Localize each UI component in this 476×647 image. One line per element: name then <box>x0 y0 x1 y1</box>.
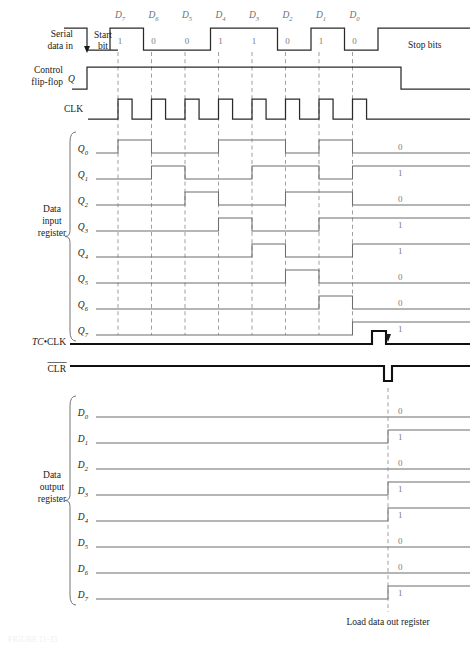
q-row-label-2-subscript: 2 <box>85 201 89 208</box>
d4-final-value: 1 <box>398 510 403 520</box>
d-row-label-5-subscript: 5 <box>85 543 89 550</box>
q5-waveform <box>96 270 470 283</box>
d-row-label-2: D2 <box>77 460 89 472</box>
tc-clk-waveform <box>70 331 470 344</box>
bit-header-d1: D1 <box>315 10 326 22</box>
control-ff-q-waveform <box>72 67 470 89</box>
q-row-label-5-subscript: 5 <box>85 279 89 286</box>
serial-bit-value-0: 1 <box>118 36 123 46</box>
d2-final-value: 0 <box>398 458 403 468</box>
serial-bit-value-3: 1 <box>218 36 223 46</box>
d-row-label-0: D0 <box>77 408 89 420</box>
serial-bit-value-2: 0 <box>185 36 190 46</box>
signal-serial-data-in: Serial data in Start bit Stop bits 10011… <box>47 28 470 53</box>
control-ff-label-line1: Control <box>34 65 63 75</box>
d-row-label-5: D5 <box>77 538 89 550</box>
q-row-label-4: Q4 <box>78 248 89 260</box>
q7-final-value: 1 <box>398 324 403 334</box>
d3-final-value: 1 <box>398 484 403 494</box>
d7-final-value: 1 <box>398 588 403 598</box>
q6-waveform <box>96 296 470 309</box>
d-row-label-3: D3 <box>77 486 89 498</box>
timing-diagram-figure: D7D6D5D4D3D2D1D0 Serial data in Start bi… <box>0 0 476 647</box>
data-input-register-label-line3: register <box>38 228 67 238</box>
q6-final-value: 0 <box>398 298 403 308</box>
q2-final-value: 0 <box>398 194 403 204</box>
figure-caption: FIGURE 11-33 <box>8 635 57 644</box>
q-row-label-2: Q2 <box>78 196 89 208</box>
serial-bit-value-labels: 10011010 <box>118 36 358 46</box>
bit-header-d4: D4 <box>214 10 226 22</box>
bit-header-d7: D7 <box>114 10 126 22</box>
d3-waveform <box>96 482 470 495</box>
q1-waveform <box>96 166 470 179</box>
clock-edge-guides <box>118 52 353 335</box>
q-row-label-6-subscript: 6 <box>85 305 89 312</box>
serial-data-in-label-line2: data in <box>47 41 73 51</box>
data-output-register-label-line3: register <box>38 494 67 504</box>
q-row-label-5: Q5 <box>78 274 89 286</box>
q-row-label-4-subscript: 4 <box>85 253 89 260</box>
q-row-label-0: Q0 <box>78 144 89 156</box>
d-row-label-1-subscript: 1 <box>85 439 88 446</box>
q0-final-value: 0 <box>398 142 403 152</box>
tc-clk-label-tc: TC <box>32 337 44 347</box>
d7-waveform <box>96 586 470 599</box>
data-output-register-label-line1: Data <box>43 470 62 480</box>
q-row-label-3: Q3 <box>78 222 89 234</box>
stop-bits-label: Stop bits <box>408 40 442 50</box>
signal-tc-clk: TC•CLK <box>32 331 470 347</box>
q5-final-value: 0 <box>398 272 403 282</box>
serial-bit-value-4: 1 <box>252 36 257 46</box>
clr-label: CLR <box>48 364 67 374</box>
clk-label: CLK <box>64 104 83 114</box>
d-row-label-0-subscript: 0 <box>85 413 89 420</box>
tc-clk-label: TC•CLK <box>32 337 66 347</box>
bit-header-d0: D0 <box>348 10 360 22</box>
serial-bit-value-1: 0 <box>151 36 156 46</box>
bit-header-row: D7D6D5D4D3D2D1D0 <box>114 10 360 22</box>
q-signal-rows: Q00Q11Q20Q31Q41Q50Q60Q71 <box>78 140 470 338</box>
d0-final-value: 0 <box>398 406 403 416</box>
signal-clr: CLR <box>48 363 470 382</box>
d-row-label-3-subscript: 3 <box>84 491 89 498</box>
q3-waveform <box>96 218 470 231</box>
q-row-label-0-subscript: 0 <box>85 149 89 156</box>
serial-bit-value-7: 0 <box>352 36 357 46</box>
bit-header-d6: D6 <box>147 10 159 22</box>
q1-final-value: 1 <box>398 168 403 178</box>
q-row-label-3-subscript: 3 <box>84 227 89 234</box>
d4-waveform <box>96 508 470 521</box>
d-row-label-7: D7 <box>77 590 89 602</box>
load-data-out-register-note: Load data out register <box>346 617 430 627</box>
d-row-label-2-subscript: 2 <box>85 465 89 472</box>
d-row-label-4-subscript: 4 <box>85 517 89 524</box>
d-signal-rows: D00D11D20D31D41D50D60D71 <box>77 406 470 602</box>
q7-waveform <box>96 322 470 335</box>
serial-bit-value-6: 1 <box>319 36 324 46</box>
bit-header-d3: D3 <box>248 10 260 22</box>
clk-waveform <box>88 99 470 119</box>
q2-waveform <box>96 192 470 205</box>
d-row-label-1: D1 <box>77 434 88 446</box>
q3-final-value: 1 <box>398 220 403 230</box>
q-row-label-6: Q6 <box>78 300 89 312</box>
q4-final-value: 1 <box>398 246 403 256</box>
d-row-label-4: D4 <box>77 512 89 524</box>
q-row-label-1-subscript: 1 <box>85 175 88 182</box>
group-data-input-register: Data input register Q00Q11Q20Q31Q41Q50Q6… <box>38 132 470 341</box>
start-bit-label-line1: Start <box>94 30 112 40</box>
start-bit-label-line2: bit <box>98 41 108 51</box>
group-data-output-register: Data output register D00D11D20D31D41D50D… <box>38 396 470 605</box>
q0-waveform <box>96 140 470 153</box>
data-input-register-label-line2: input <box>42 216 62 226</box>
control-ff-label-line2: flip-flop <box>31 77 63 87</box>
signal-control-flip-flop-q: Control flip-flop Q <box>31 65 470 89</box>
d1-waveform <box>96 430 470 443</box>
bit-header-d2: D2 <box>281 10 293 22</box>
d6-final-value: 0 <box>398 562 403 572</box>
d-row-label-6: D6 <box>77 564 89 576</box>
q-row-label-1: Q1 <box>78 170 88 182</box>
bit-header-d5: D5 <box>181 10 193 22</box>
serial-bit-value-5: 0 <box>285 36 290 46</box>
